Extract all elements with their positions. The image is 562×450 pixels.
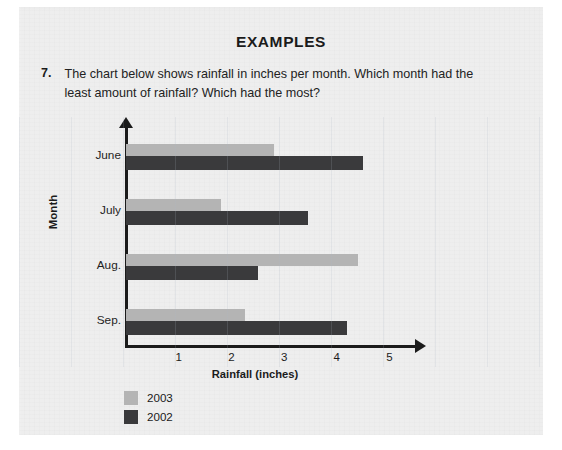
legend-item-2002: 2002 [124,407,173,426]
x-tick-5: 5 [379,351,401,363]
bar-sep-2002 [126,321,347,335]
legend-label-2002: 2002 [147,410,173,423]
legend-swatch-2002 [124,410,138,424]
x-axis-line [125,345,415,348]
x-tick-2: 2 [220,351,242,363]
chart-legend: 2003 2002 [124,388,173,426]
bar-june-2002 [126,156,363,170]
bar-july-2003 [126,199,221,211]
x-axis-arrow-icon [415,339,426,353]
x-tick-4: 4 [326,351,348,363]
x-tick-1: 1 [168,351,190,363]
textbook-page: EXAMPLES 7. The chart below shows rainfa… [19,7,543,435]
legend-item-2003: 2003 [124,388,173,407]
bar-sep-2003 [126,309,245,321]
bar-july-2002 [126,211,308,225]
bar-june-2003 [126,144,274,156]
category-label-aug: Aug. [51,258,121,272]
x-axis-title: Rainfall (inches) [190,368,320,380]
y-axis-category-labels: June July Aug. Sep. [49,7,121,435]
bar-aug-2002 [126,266,258,280]
legend-label-2003: 2003 [147,391,173,404]
x-tick-3: 3 [273,351,295,363]
bar-aug-2003 [126,254,358,266]
category-label-july: July [51,203,121,217]
category-label-june: June [51,148,121,162]
legend-swatch-2003 [124,391,138,405]
rainfall-bar-chart: Month June July Aug. Sep. 1 2 3 4 5 Rain… [19,7,543,435]
category-label-sep: Sep. [51,313,121,327]
